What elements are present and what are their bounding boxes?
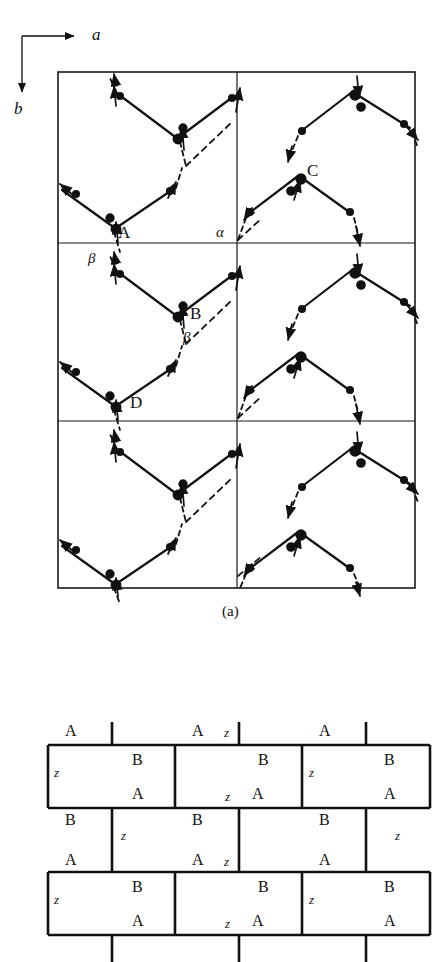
grid-label-A: A	[132, 786, 144, 802]
grid-label-z: z	[121, 829, 126, 842]
grid-label-A: A	[65, 852, 77, 868]
grid-label-B: B	[132, 752, 143, 768]
grid-label-A: A	[192, 852, 204, 868]
grid-label-B: B	[258, 879, 269, 895]
grid-label-B: B	[192, 812, 203, 828]
grid-label-z: z	[54, 766, 59, 779]
chain-tile-right-1	[238, 76, 418, 246]
interchain-dashed-links	[186, 122, 262, 576]
site-label-A: A	[118, 224, 130, 241]
site-label-B: B	[190, 305, 201, 322]
grid-label-A: A	[319, 723, 331, 739]
grid-label-B: B	[319, 812, 330, 828]
chain-tile-left-2	[60, 252, 240, 430]
panel-a-graphic	[0, 0, 446, 640]
grid-label-A: A	[252, 913, 264, 929]
panel-a-frame	[58, 72, 415, 588]
grid-label-z: z	[224, 855, 229, 868]
axis-indicator	[22, 36, 74, 92]
chain-tile-left-1	[60, 74, 240, 252]
spin-chain-network	[60, 74, 418, 604]
greek-label-beta-2: β	[183, 330, 190, 345]
grid-label-B: B	[65, 812, 76, 828]
grid-label-B: B	[384, 752, 395, 768]
panel-b-lattice	[48, 722, 430, 962]
grid-label-B: B	[132, 879, 143, 895]
panel-b-graphic	[0, 712, 446, 962]
grid-label-A: A	[192, 723, 204, 739]
grid-label-z: z	[224, 726, 229, 739]
grid-label-z: z	[225, 917, 230, 930]
axis-label-a: a	[92, 26, 101, 43]
grid-label-B: B	[258, 752, 269, 768]
grid-label-A: A	[384, 786, 396, 802]
grid-label-B: B	[384, 879, 395, 895]
grid-label-A: A	[252, 786, 264, 802]
greek-label-alpha: α	[216, 225, 224, 240]
grid-label-z: z	[309, 766, 314, 779]
figure-root: a b A C B D α β β (a)	[0, 0, 446, 962]
grid-label-z: z	[225, 790, 230, 803]
panel-a-caption: (a)	[222, 604, 239, 619]
site-label-C: C	[307, 162, 318, 179]
chain-tile-right-2	[238, 254, 418, 424]
chain-tile-right-3	[240, 432, 418, 596]
chain-tile-left-3	[60, 430, 240, 604]
grid-label-z: z	[395, 829, 400, 842]
greek-label-beta-1: β	[88, 251, 95, 266]
grid-label-A: A	[132, 913, 144, 929]
axis-label-b: b	[14, 100, 23, 117]
grid-label-A: A	[65, 723, 77, 739]
site-label-D: D	[130, 394, 142, 411]
grid-label-A: A	[319, 852, 331, 868]
grid-label-A: A	[384, 913, 396, 929]
grid-label-z: z	[309, 893, 314, 906]
grid-label-z: z	[54, 893, 59, 906]
